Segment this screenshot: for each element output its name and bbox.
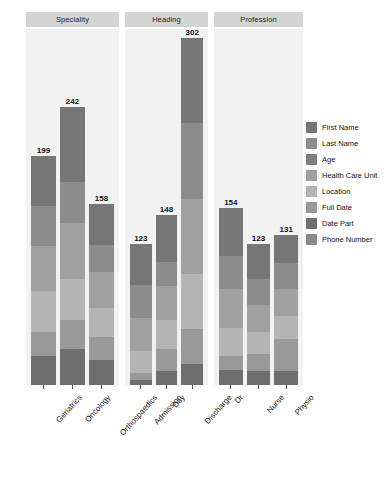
bar-segment[interactable] bbox=[181, 329, 203, 365]
legend-label: Location bbox=[322, 187, 350, 196]
bar-segment[interactable] bbox=[130, 318, 152, 350]
bar-slot[interactable]: 131 bbox=[274, 29, 298, 385]
stacked-bar[interactable] bbox=[130, 244, 152, 385]
legend-item[interactable]: Age bbox=[306, 151, 390, 167]
bar-segment[interactable] bbox=[31, 206, 56, 246]
tick-mark bbox=[140, 385, 141, 389]
bar-slot[interactable]: 158 bbox=[89, 29, 114, 385]
x-axis-tick-label: Orthospaedics bbox=[118, 393, 159, 437]
stacked-bar-chart: Speciality 199242158 Heading 123148302 P… bbox=[0, 0, 392, 480]
legend-item[interactable]: Health Care Unit bbox=[306, 167, 390, 183]
x-axis-tick-label: Nurse bbox=[265, 393, 286, 415]
bar-segment[interactable] bbox=[219, 356, 243, 370]
legend-item[interactable]: Location bbox=[306, 183, 390, 199]
bar-segment[interactable] bbox=[219, 370, 243, 385]
bar-segment[interactable] bbox=[130, 285, 152, 318]
bar-segment[interactable] bbox=[130, 244, 152, 285]
bar-segment[interactable] bbox=[219, 256, 243, 288]
bar-segment[interactable] bbox=[60, 279, 85, 319]
bar-segment[interactable] bbox=[89, 272, 114, 308]
bar-segment[interactable] bbox=[181, 274, 203, 329]
bar-segment[interactable] bbox=[219, 208, 243, 256]
stacked-bar[interactable] bbox=[156, 215, 178, 385]
bar-value-label: 148 bbox=[156, 205, 178, 214]
bar-slot[interactable]: 302 bbox=[181, 29, 203, 385]
legend-label: Full Date bbox=[322, 203, 352, 212]
bar-segment[interactable] bbox=[156, 349, 178, 371]
bar-segment[interactable] bbox=[60, 349, 85, 385]
bar-segment[interactable] bbox=[156, 286, 178, 319]
bar-segment[interactable] bbox=[89, 337, 114, 360]
bars-heading: 123148302 bbox=[125, 29, 208, 385]
stacked-bar[interactable] bbox=[181, 38, 203, 385]
bar-segment[interactable] bbox=[247, 332, 271, 354]
stacked-bar[interactable] bbox=[274, 235, 298, 385]
legend-item[interactable]: First Name bbox=[306, 119, 390, 135]
bar-segment[interactable] bbox=[31, 332, 56, 356]
stacked-bar[interactable] bbox=[247, 244, 271, 385]
bar-segment[interactable] bbox=[130, 351, 152, 374]
bar-segment[interactable] bbox=[130, 373, 152, 380]
bar-segment[interactable] bbox=[181, 364, 203, 385]
bar-segment[interactable] bbox=[89, 204, 114, 245]
bar-segment[interactable] bbox=[181, 123, 203, 199]
tick-mark bbox=[230, 385, 231, 389]
bar-segment[interactable] bbox=[181, 38, 203, 123]
bar-slot[interactable]: 123 bbox=[130, 29, 152, 385]
tick-mark bbox=[166, 385, 167, 389]
legend-label: Phone Number bbox=[322, 235, 372, 244]
bar-segment[interactable] bbox=[274, 235, 298, 264]
bar-segment[interactable] bbox=[219, 289, 243, 328]
bar-segment[interactable] bbox=[156, 371, 178, 385]
bar-segment[interactable] bbox=[247, 244, 271, 280]
bar-slot[interactable]: 123 bbox=[247, 29, 271, 385]
stacked-bar[interactable] bbox=[60, 107, 85, 385]
bar-value-label: 123 bbox=[247, 234, 271, 243]
tick-mark bbox=[43, 385, 44, 389]
bar-segment[interactable] bbox=[31, 356, 56, 385]
bar-segment[interactable] bbox=[89, 360, 114, 385]
legend-label: First Name bbox=[322, 123, 359, 132]
bar-segment[interactable] bbox=[181, 199, 203, 274]
bar-segment[interactable] bbox=[89, 308, 114, 337]
stacked-bar[interactable] bbox=[219, 208, 243, 385]
bars-speciality: 199242158 bbox=[26, 29, 119, 385]
bar-slot[interactable]: 154 bbox=[219, 29, 243, 385]
bar-segment[interactable] bbox=[60, 182, 85, 223]
legend-item[interactable]: Phone Number bbox=[306, 231, 390, 247]
stacked-bar[interactable] bbox=[31, 156, 56, 385]
bar-segment[interactable] bbox=[247, 279, 271, 304]
bar-segment[interactable] bbox=[247, 305, 271, 333]
bar-segment[interactable] bbox=[247, 354, 271, 371]
bar-segment[interactable] bbox=[89, 245, 114, 273]
bar-segment[interactable] bbox=[156, 320, 178, 350]
bar-segment[interactable] bbox=[219, 328, 243, 357]
bar-segment[interactable] bbox=[247, 371, 271, 385]
x-axis-tick-label: Physio bbox=[293, 393, 316, 417]
bar-segment[interactable] bbox=[156, 215, 178, 262]
bar-segment[interactable] bbox=[60, 107, 85, 182]
legend-item[interactable]: Full Date bbox=[306, 199, 390, 215]
legend-swatch bbox=[306, 218, 317, 229]
bar-slot[interactable]: 242 bbox=[60, 29, 85, 385]
legend-item[interactable]: Date Part bbox=[306, 215, 390, 231]
panel-strip-label: Speciality bbox=[26, 12, 119, 27]
bar-segment[interactable] bbox=[274, 289, 298, 317]
stacked-bar[interactable] bbox=[89, 204, 114, 385]
bar-segment[interactable] bbox=[60, 320, 85, 350]
bar-segment[interactable] bbox=[31, 246, 56, 291]
bar-segment[interactable] bbox=[274, 371, 298, 385]
facet-panel-heading: Heading 123148302 bbox=[125, 12, 208, 385]
bar-segment[interactable] bbox=[274, 263, 298, 288]
bar-slot[interactable]: 148 bbox=[156, 29, 178, 385]
bar-segment[interactable] bbox=[31, 291, 56, 332]
legend: First NameLast NameAgeHealth Care UnitLo… bbox=[306, 119, 390, 247]
bar-segment[interactable] bbox=[156, 262, 178, 286]
bar-segment[interactable] bbox=[274, 339, 298, 371]
bar-segment[interactable] bbox=[60, 223, 85, 279]
bar-segment[interactable] bbox=[274, 316, 298, 339]
bar-segment[interactable] bbox=[31, 156, 56, 205]
x-axis-tick-label: Discharge bbox=[203, 393, 234, 426]
bar-slot[interactable]: 199 bbox=[31, 29, 56, 385]
legend-item[interactable]: Last Name bbox=[306, 135, 390, 151]
